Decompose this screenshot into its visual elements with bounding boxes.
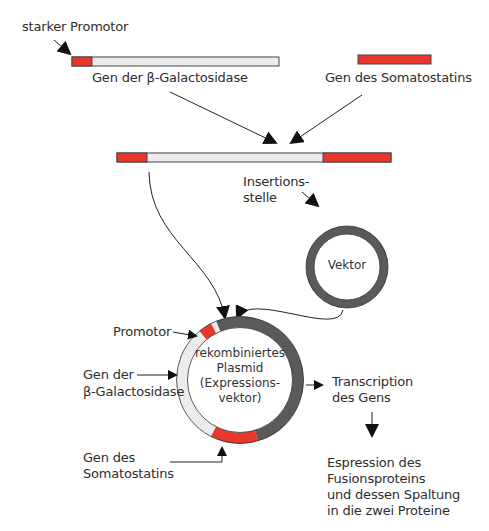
- label-insertion-site-2: stelle: [243, 190, 277, 206]
- beta-gal-gene-bar: [72, 57, 279, 66]
- arrow-beta-gal-to-fusion: [170, 92, 276, 143]
- arrow-strong-promoter: [54, 40, 70, 54]
- label-beta-gal-2: β-Galactosidase: [83, 384, 184, 400]
- label-somatostatin-2: Somatostatins: [83, 466, 174, 482]
- label-insertion-site-1: Insertions-: [243, 174, 309, 190]
- label-expression-3: und dessen Spaltung: [327, 487, 460, 503]
- label-beta-gal-gene: Gen der β-Galactosidase: [92, 70, 248, 86]
- arrow-insertion-site: [302, 192, 318, 206]
- arrow-fusion-to-plasmid: [149, 172, 225, 318]
- fusion-gene-bar: [117, 153, 391, 162]
- label-plasmid-4: vektor): [190, 391, 290, 406]
- label-transcription-1: Transcription: [332, 374, 413, 390]
- label-expression-4: in die zwei Proteine: [327, 503, 450, 519]
- label-plasmid-2: Plasmid: [190, 361, 290, 376]
- label-somatostatin-1: Gen des: [83, 450, 135, 466]
- somatostatin-gene-bar: [358, 55, 431, 64]
- arrow-somatostatin-to-fusion: [291, 95, 362, 143]
- arrow-promoter: [173, 332, 196, 336]
- label-expression-1: Espression des: [327, 455, 421, 471]
- label-strong-promoter: starker Promotor: [22, 19, 128, 35]
- label-plasmid-1: rekombiniertes: [190, 346, 290, 361]
- label-somatostatin-gene: Gen des Somatostatins: [325, 70, 472, 86]
- label-beta-gal-1: Gen der: [83, 367, 134, 383]
- arrow-somatostatin: [170, 448, 222, 462]
- label-plasmid-3: (Expressions-: [190, 376, 290, 391]
- label-vector: Vektor: [317, 258, 377, 273]
- label-expression-2: Fusionsproteins: [327, 471, 425, 487]
- label-promoter: Promotor: [113, 324, 171, 340]
- label-transcription-2: des Gens: [332, 390, 391, 406]
